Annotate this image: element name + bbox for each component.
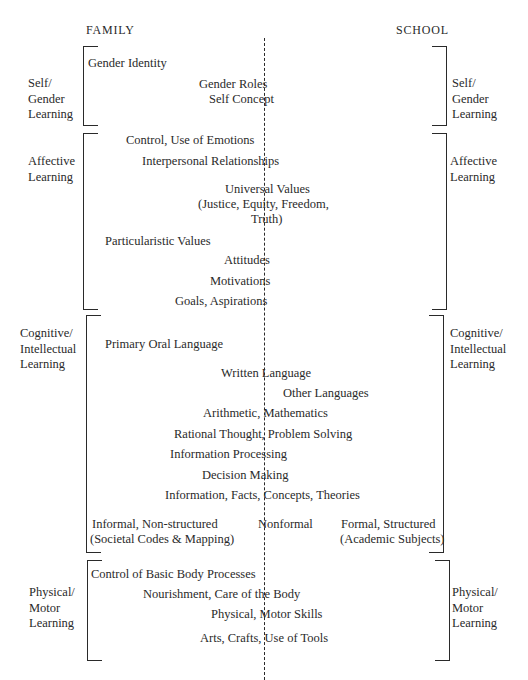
- family-header: FAMILY: [86, 22, 135, 38]
- item-other-languages: Other Languages: [283, 385, 369, 401]
- item-universal-values: Universal Values: [225, 181, 310, 197]
- item-control-emotions: Control, Use of Emotions: [126, 132, 254, 148]
- learning-domains-diagram: FAMILY SCHOOL Self/ Gender Learning Self…: [0, 0, 528, 680]
- mode-nonformal: Nonformal: [258, 516, 313, 532]
- affective-label-left: Affective Learning: [28, 154, 75, 185]
- item-decision-making: Decision Making: [202, 467, 288, 483]
- family-school-divider: [264, 38, 265, 680]
- affective-label-right: Affective Learning: [450, 154, 497, 185]
- item-gender-identity: Gender Identity: [88, 55, 167, 71]
- mode-formal-detail: (Academic Subjects): [340, 531, 444, 547]
- item-attitudes: Attitudes: [224, 252, 270, 268]
- item-rational-thought: Rational Thought, Problem Solving: [174, 426, 352, 442]
- item-self-concept: Self Concept: [209, 91, 274, 107]
- item-goals-aspirations: Goals, Aspirations: [175, 293, 267, 309]
- item-interpersonal-relationships: Interpersonal Relationships: [142, 153, 279, 169]
- mode-informal-detail: (Societal Codes & Mapping): [90, 531, 234, 547]
- item-physical-motor-skills: Physical, Motor Skills: [211, 606, 322, 622]
- self-gender-label-right: Self/ Gender Learning: [452, 76, 497, 123]
- physical-right-bracket: [435, 560, 450, 661]
- item-universal-values-examples: (Justice, Equity, Freedom,: [198, 196, 329, 212]
- item-information-facts: Information, Facts, Concepts, Theories: [165, 487, 360, 503]
- item-arithmetic-mathematics: Arithmetic, Mathematics: [203, 405, 328, 421]
- physical-label-left: Physical/ Motor Learning: [29, 585, 75, 632]
- school-header: SCHOOL: [396, 22, 449, 38]
- self-right-bracket: [432, 46, 447, 126]
- cognitive-label-right: Cognitive/ Intellectual Learning: [450, 326, 506, 373]
- item-particularistic-values: Particularistic Values: [105, 233, 211, 249]
- item-basic-body-processes: Control of Basic Body Processes: [91, 566, 256, 582]
- physical-label-right: Physical/ Motor Learning: [452, 585, 498, 632]
- item-gender-roles: Gender Roles: [199, 76, 267, 92]
- item-information-processing: Information Processing: [170, 446, 287, 462]
- item-primary-oral-language: Primary Oral Language: [105, 336, 223, 352]
- mode-formal: Formal, Structured: [341, 516, 435, 532]
- cognitive-label-left: Cognitive/ Intellectual Learning: [20, 326, 76, 373]
- item-arts-crafts-tools: Arts, Crafts, Use of Tools: [200, 630, 328, 646]
- mode-informal: Informal, Non-structured: [92, 516, 218, 532]
- item-nourishment-care: Nourishment, Care of the Body: [143, 586, 300, 602]
- affective-left-bracket: [83, 133, 98, 310]
- item-written-language: Written Language: [221, 365, 311, 381]
- self-gender-label-left: Self/ Gender Learning: [28, 76, 73, 123]
- affective-right-bracket: [432, 133, 447, 310]
- item-universal-values-truth: Truth): [251, 211, 283, 227]
- item-motivations: Motivations: [210, 273, 270, 289]
